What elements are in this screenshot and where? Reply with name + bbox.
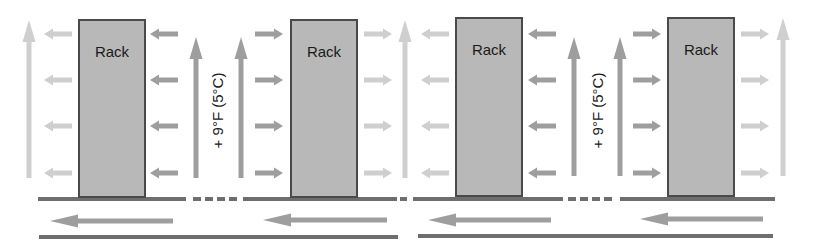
airflow-arrow-left-icon-head xyxy=(421,168,430,179)
airflow-arrow-left-icon-head xyxy=(44,29,53,40)
airflow-arrow-right-icon-head xyxy=(274,75,283,86)
underfloor-airflow-arrow-icon-head xyxy=(263,214,291,227)
airflow-arrow-right-icon-head xyxy=(274,168,283,179)
airflow-arrow-right-icon-head xyxy=(760,29,769,40)
airflow-arrow-right-icon-head xyxy=(760,168,769,179)
temperature-rise-label: + 9°F (5°C) xyxy=(589,72,606,148)
vertical-airflow-arrow-icon-head xyxy=(190,37,203,59)
airflow-diagram: Rack Rack Rack Rack + 9°F (5°C) + 9°F (5… xyxy=(0,0,813,249)
airflow-arrow-right-icon-head xyxy=(652,75,661,86)
airflow-arrow-left-icon-head xyxy=(421,29,430,40)
airflow-arrow-left-icon-head xyxy=(150,75,159,86)
vertical-airflow-arrow-icon-head xyxy=(777,18,790,40)
underfloor-airflow-arrow-icon-head xyxy=(50,215,78,228)
rack-2: Rack xyxy=(290,19,358,198)
airflow-arrow-right-icon-head xyxy=(760,121,769,132)
airflow-arrow-left-icon-head xyxy=(528,168,537,179)
rack-label: Rack xyxy=(80,43,144,60)
airflow-arrow-left-icon-head xyxy=(150,168,159,179)
airflow-arrow-right-icon-head xyxy=(760,75,769,86)
airflow-arrow-left-icon-head xyxy=(421,75,430,86)
rack-3: Rack xyxy=(455,17,523,197)
airflow-arrow-right-icon-head xyxy=(652,121,661,132)
airflow-arrow-left-icon-head xyxy=(44,75,53,86)
vertical-airflow-arrow-icon-head xyxy=(23,20,36,42)
rack-1: Rack xyxy=(78,19,146,198)
vertical-airflow-arrow-icon-head xyxy=(568,37,581,59)
airflow-arrow-left-icon-head xyxy=(528,75,537,86)
vertical-airflow-arrow-icon-head xyxy=(614,37,627,59)
rack-4: Rack xyxy=(667,17,735,197)
airflow-arrow-right-icon-head xyxy=(383,75,392,86)
airflow-arrow-right-icon-head xyxy=(652,29,661,40)
vertical-airflow-arrow-icon-head xyxy=(235,37,248,59)
airflow-arrow-left-icon-head xyxy=(150,29,159,40)
airflow-arrow-left-icon-head xyxy=(44,168,53,179)
airflow-arrow-right-icon-head xyxy=(383,29,392,40)
airflow-arrow-right-icon-head xyxy=(274,121,283,132)
underfloor-airflow-arrow-icon-head xyxy=(640,213,668,226)
airflow-arrow-left-icon-head xyxy=(528,29,537,40)
airflow-arrow-left-icon-head xyxy=(44,121,53,132)
airflow-arrow-right-icon-head xyxy=(652,168,661,179)
vertical-airflow-arrow-icon-head xyxy=(399,20,412,42)
airflow-arrow-right-icon-head xyxy=(383,121,392,132)
underfloor-airflow-arrow-icon-head xyxy=(428,214,456,227)
airflow-arrow-right-icon-head xyxy=(274,29,283,40)
rack-label: Rack xyxy=(292,43,356,60)
airflow-arrow-left-icon-head xyxy=(150,121,159,132)
airflow-arrow-right-icon-head xyxy=(383,168,392,179)
rack-label: Rack xyxy=(457,41,521,58)
airflow-arrow-left-icon-head xyxy=(528,121,537,132)
airflow-arrow-left-icon-head xyxy=(421,121,430,132)
temperature-rise-label: + 9°F (5°C) xyxy=(209,72,226,148)
rack-label: Rack xyxy=(669,41,733,58)
